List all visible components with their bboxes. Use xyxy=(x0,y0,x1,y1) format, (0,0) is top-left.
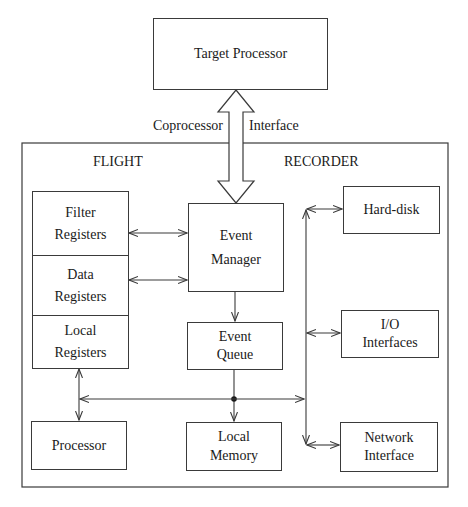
network-interface-line2: Interface xyxy=(364,447,414,465)
local-memory-line1: Local xyxy=(218,428,250,446)
event-queue-box: Event Queue xyxy=(187,322,283,370)
recorder-title: RECORDER xyxy=(284,154,359,170)
io-interfaces-line2: Interfaces xyxy=(362,334,417,352)
interface-label: Interface xyxy=(249,118,299,134)
filter-registers-line1: Filter xyxy=(65,202,95,224)
processor-box: Processor xyxy=(31,421,127,470)
filter-registers-line2: Registers xyxy=(54,224,106,246)
io-interfaces-line1: I/O xyxy=(381,316,400,334)
filter-registers-cell: Filter Registers xyxy=(33,192,128,256)
local-registers-line1: Local xyxy=(65,320,97,342)
network-interface-box: Network Interface xyxy=(340,422,438,472)
local-registers-line2: Registers xyxy=(54,342,106,364)
event-queue-line1: Event xyxy=(219,328,252,346)
bus-junction-dot xyxy=(231,396,237,402)
target-processor-box: Target Processor xyxy=(153,18,328,90)
flight-title: FLIGHT xyxy=(93,154,143,170)
event-queue-line2: Queue xyxy=(217,346,254,364)
hard-disk-label: Hard-disk xyxy=(364,199,420,221)
hard-disk-box: Hard-disk xyxy=(343,186,440,234)
event-manager-box: Event Manager xyxy=(188,203,284,292)
data-registers-line2: Registers xyxy=(54,286,106,308)
local-memory-box: Local Memory xyxy=(186,422,282,471)
event-manager-line1: Event xyxy=(220,224,253,248)
data-registers-line1: Data xyxy=(67,264,93,286)
target-processor-label: Target Processor xyxy=(194,43,287,65)
local-registers-cell: Local Registers xyxy=(33,316,128,368)
data-registers-cell: Data Registers xyxy=(33,256,128,316)
register-stack: Filter Registers Data Registers Local Re… xyxy=(32,191,129,369)
coprocessor-label: Coprocessor xyxy=(153,118,223,134)
coprocessor-interface-arrow xyxy=(218,90,254,203)
processor-label: Processor xyxy=(52,435,106,457)
network-interface-line1: Network xyxy=(365,429,414,447)
io-interfaces-box: I/O Interfaces xyxy=(341,310,439,358)
local-memory-line2: Memory xyxy=(210,447,258,465)
event-manager-line2: Manager xyxy=(211,248,261,272)
